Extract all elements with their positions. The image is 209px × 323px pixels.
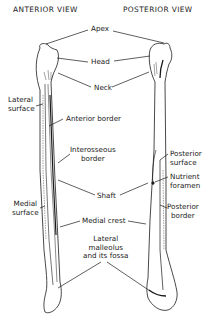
label-interosseous-border-line2: border	[70, 155, 116, 164]
label-posterior-border-line2: border	[167, 212, 199, 221]
label-lateral-surface-line2: surface	[8, 105, 35, 114]
label-neck: Neck	[94, 84, 112, 93]
label-lateral-surface: Lateral surface	[8, 96, 35, 113]
anterior-fibula-bone	[36, 44, 61, 313]
label-lateral-malleolus-line3: and its fossa	[83, 252, 128, 261]
label-interosseous-border: Interosseous border	[70, 146, 116, 163]
posterior-view-heading: POSTERIOR VIEW	[123, 6, 193, 15]
fibula-diagram: ANTERIOR VIEW POSTERIOR VIEW Apex Head N…	[0, 0, 209, 323]
label-apex: Apex	[91, 25, 109, 34]
label-medial-surface: Medial surface	[12, 200, 39, 217]
label-lateral-malleolus: Lateral malleolus and its fossa	[83, 235, 128, 261]
anterior-view-heading: ANTERIOR VIEW	[13, 6, 78, 15]
label-medial-surface-line2: surface	[12, 209, 39, 218]
label-nutrient-foramen: Nutrient foramen	[170, 173, 200, 190]
label-medial-crest: Medial crest	[82, 217, 126, 226]
label-posterior-surface: Posterior surface	[170, 150, 202, 167]
label-shaft: Shaft	[97, 192, 116, 201]
label-nutrient-foramen-line2: foramen	[170, 182, 200, 191]
label-posterior-surface-line2: surface	[170, 159, 202, 168]
label-anterior-border: Anterior border	[66, 115, 121, 124]
label-head: Head	[91, 58, 110, 67]
label-posterior-border: Posterior border	[167, 203, 199, 220]
